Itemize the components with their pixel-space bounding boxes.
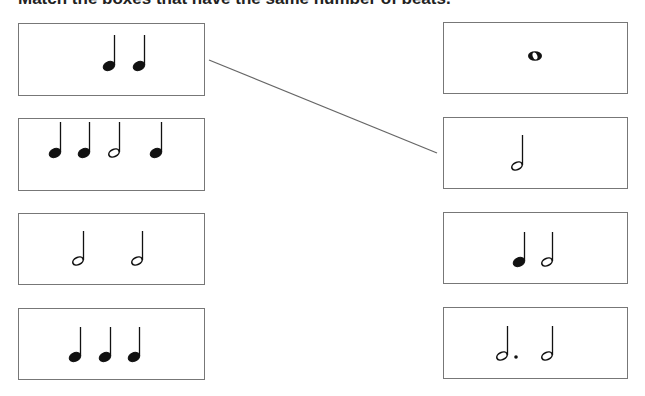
quarter-notes-icon: [19, 24, 206, 97]
right-box-1[interactable]: [443, 22, 628, 94]
quarter-notes-icon: [19, 309, 206, 381]
worksheet-instructions: Match the boxes that have the same numbe…: [18, 0, 451, 9]
left-box-3[interactable]: [18, 213, 205, 285]
left-box-2[interactable]: [18, 118, 205, 191]
right-box-2[interactable]: [443, 117, 628, 189]
quarter-and-half-note-icon: [444, 213, 629, 285]
right-box-3[interactable]: [443, 212, 628, 284]
left-box-4[interactable]: [18, 308, 205, 380]
left-box-1[interactable]: [18, 23, 205, 96]
half-notes-icon: [19, 214, 206, 286]
whole-note-icon: [444, 23, 629, 95]
half-note-icon: [444, 118, 629, 190]
right-box-4[interactable]: [443, 307, 628, 379]
mixed-notes-icon: [19, 119, 206, 192]
dotted-half-and-half-note-icon: [444, 308, 629, 380]
